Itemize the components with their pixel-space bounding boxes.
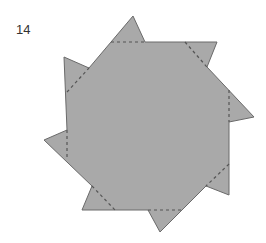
pinwheel-octagon-diagram bbox=[0, 0, 266, 243]
pinwheel-shape bbox=[44, 16, 254, 232]
